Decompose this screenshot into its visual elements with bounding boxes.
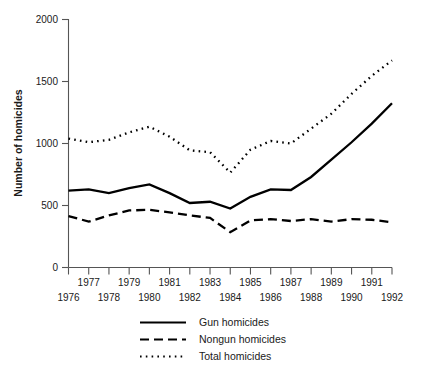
x-tick-label-1981: 1981 <box>158 277 181 288</box>
series-line-nongun-homicides <box>69 210 393 232</box>
x-tick-label-1991: 1991 <box>361 277 384 288</box>
legend-label-total-homicides: Total homicides <box>199 350 271 362</box>
x-axis-tick-labels-upper: 19771979198119831985198719891991 <box>78 277 384 288</box>
chart-legend: Gun homicides Nongun homicides Total hom… <box>140 316 286 362</box>
x-tick-label-1992: 1992 <box>381 292 404 303</box>
x-tick-label-1989: 1989 <box>320 277 343 288</box>
x-tick-label-1986: 1986 <box>260 292 283 303</box>
x-axis-ticks <box>69 268 393 275</box>
x-tick-label-1978: 1978 <box>98 292 121 303</box>
x-tick-label-1988: 1988 <box>300 292 323 303</box>
y-tick-label-0: 0 <box>52 262 58 273</box>
legend-label-nongun-homicides: Nongun homicides <box>199 333 286 345</box>
legend-label-gun-homicides: Gun homicides <box>199 316 269 328</box>
x-tick-label-1976: 1976 <box>57 292 80 303</box>
series-line-total-homicides <box>69 60 393 172</box>
y-tick-label-500: 500 <box>41 200 58 211</box>
x-tick-label-1980: 1980 <box>138 292 161 303</box>
chart-figure: 0 500 1000 1500 2000 Number of homicides… <box>0 0 421 372</box>
y-axis-title: Number of homicides <box>12 89 24 197</box>
x-tick-label-1983: 1983 <box>199 277 222 288</box>
line-chart: 0 500 1000 1500 2000 Number of homicides… <box>0 0 421 372</box>
x-tick-label-1990: 1990 <box>340 292 363 303</box>
x-tick-label-1982: 1982 <box>179 292 202 303</box>
x-tick-label-1977: 1977 <box>78 277 101 288</box>
y-tick-label-2000: 2000 <box>36 14 59 25</box>
y-tick-label-1000: 1000 <box>36 138 59 149</box>
x-tick-label-1984: 1984 <box>219 292 242 303</box>
x-tick-label-1985: 1985 <box>239 277 262 288</box>
x-tick-label-1987: 1987 <box>280 277 303 288</box>
y-axis-ticks <box>62 20 69 268</box>
series-line-gun-homicides <box>69 103 393 208</box>
y-axis-tick-labels: 0 500 1000 1500 2000 <box>36 14 59 273</box>
x-axis-tick-labels-lower: 197619781980198219841986198819901992 <box>57 292 403 303</box>
y-tick-label-1500: 1500 <box>36 76 59 87</box>
x-tick-label-1979: 1979 <box>118 277 141 288</box>
